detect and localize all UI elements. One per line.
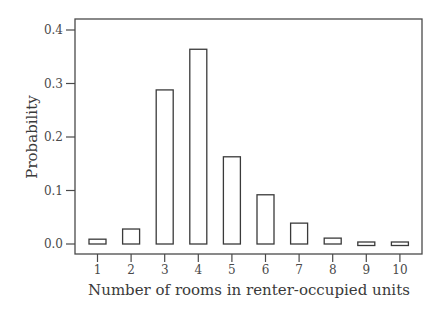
x-tick-label: 7	[295, 263, 303, 277]
bar-7	[291, 223, 308, 244]
plot-frame	[75, 19, 422, 254]
x-tick-label: 3	[161, 263, 169, 277]
y-tick-label: 0.2	[44, 130, 63, 144]
bars	[89, 49, 408, 245]
probability-bar-chart: 0.00.10.20.30.4 12345678910 Probability …	[0, 0, 443, 312]
bar-5	[223, 157, 240, 244]
y-axis: 0.00.10.20.30.4	[44, 23, 75, 251]
x-tick-label: 9	[362, 263, 370, 277]
x-tick-label: 10	[392, 263, 407, 277]
bar-1	[89, 239, 106, 244]
y-tick-label: 0.4	[44, 23, 63, 37]
x-tick-label: 4	[194, 263, 202, 277]
x-tick-label: 5	[228, 263, 236, 277]
x-axis-title: Number of rooms in renter-occupied units	[88, 281, 410, 299]
y-axis-title: Probability	[23, 95, 41, 179]
x-tick-label: 8	[329, 263, 337, 277]
y-tick-label: 0.1	[44, 184, 63, 198]
x-tick-label: 6	[262, 263, 270, 277]
bar-3	[156, 90, 173, 244]
y-tick-label: 0.3	[44, 77, 63, 91]
bar-4	[190, 49, 207, 244]
bar-8	[324, 238, 341, 244]
bar-10	[391, 242, 408, 246]
bar-2	[123, 229, 140, 244]
bar-6	[257, 195, 274, 244]
y-tick-label: 0.0	[44, 237, 63, 251]
x-axis: 12345678910	[94, 254, 408, 277]
x-tick-label: 1	[94, 263, 102, 277]
bar-9	[358, 242, 375, 246]
x-tick-label: 2	[127, 263, 135, 277]
